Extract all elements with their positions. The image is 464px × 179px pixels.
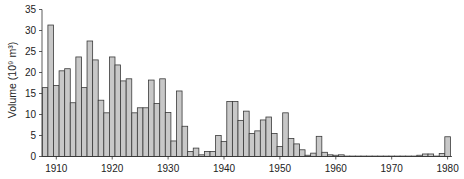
bar-1941 — [227, 101, 233, 156]
bar-1946 — [255, 131, 261, 157]
bar-1917 — [93, 60, 99, 157]
bar-1919 — [104, 113, 110, 157]
x-tick-label-1980: 1980 — [436, 163, 459, 174]
x-tick-label-1940: 1940 — [213, 163, 236, 174]
bar-1924 — [132, 113, 138, 157]
bar-1918 — [98, 100, 104, 156]
bar-1916 — [87, 41, 93, 157]
y-tick-label-10: 10 — [25, 109, 37, 120]
bar-chart: 0510152025303519101920193019401950196019… — [0, 0, 464, 179]
bar-1956 — [311, 153, 317, 156]
bar-1942 — [232, 101, 238, 156]
bar-1944 — [244, 111, 250, 156]
bar-1939 — [216, 136, 222, 157]
bar-1979 — [439, 154, 445, 157]
bar-1958 — [322, 152, 328, 156]
bar-1927 — [149, 80, 155, 156]
bar-1948 — [266, 117, 272, 156]
bar-1980 — [445, 137, 451, 157]
bar-1954 — [299, 150, 305, 157]
bar-1921 — [115, 65, 121, 157]
y-tick-label-5: 5 — [30, 130, 36, 141]
x-tick-label-1920: 1920 — [101, 163, 124, 174]
bar-1909 — [48, 25, 54, 156]
bar-1914 — [76, 57, 82, 157]
bar-1910 — [54, 86, 60, 157]
x-tick-label-1960: 1960 — [325, 163, 348, 174]
bar-1915 — [81, 88, 87, 157]
bar-1908 — [42, 88, 48, 157]
bar-1926 — [143, 108, 149, 157]
bar-1951 — [283, 113, 289, 157]
bar-1947 — [260, 120, 266, 157]
bar-1930 — [165, 112, 171, 156]
bar-1911 — [59, 71, 65, 157]
bar-1933 — [182, 126, 188, 156]
bar-1938 — [210, 151, 216, 156]
y-tick-label-25: 25 — [25, 46, 37, 57]
bar-1949 — [272, 133, 278, 156]
bar-1931 — [171, 141, 177, 157]
bar-1952 — [288, 138, 294, 156]
y-tick-label-20: 20 — [25, 67, 37, 78]
y-tick-label-15: 15 — [25, 88, 37, 99]
x-tick-label-1970: 1970 — [381, 163, 404, 174]
bar-1929 — [160, 79, 166, 157]
bar-1943 — [238, 120, 244, 156]
bar-1928 — [154, 104, 160, 157]
x-tick-label-1930: 1930 — [157, 163, 180, 174]
bar-1920 — [109, 57, 115, 157]
bar-1922 — [121, 81, 127, 157]
bar-1940 — [221, 141, 227, 156]
bar-1913 — [70, 103, 76, 157]
x-tick-label-1910: 1910 — [45, 163, 68, 174]
bar-1912 — [65, 69, 71, 157]
bar-1945 — [249, 133, 255, 156]
y-tick-label-0: 0 — [30, 151, 36, 162]
bar-1923 — [126, 79, 132, 157]
bar-1925 — [137, 108, 143, 157]
bar-1953 — [294, 144, 300, 157]
bar-1957 — [316, 136, 322, 156]
bar-1937 — [204, 151, 210, 156]
y-tick-label-30: 30 — [25, 25, 37, 36]
bar-1935 — [193, 148, 199, 156]
x-tick-label-1950: 1950 — [269, 163, 292, 174]
bar-1950 — [277, 146, 283, 156]
y-tick-label-35: 35 — [25, 4, 37, 15]
bar-1932 — [176, 91, 182, 157]
bar-1934 — [188, 151, 194, 156]
